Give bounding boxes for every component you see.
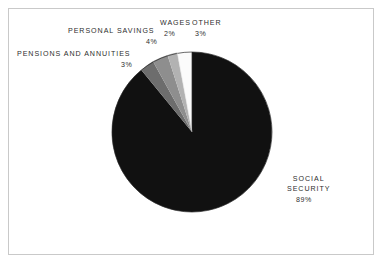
pie-value-other: 3% bbox=[195, 30, 206, 40]
chart-canvas: PENSIONS AND ANNUITIES 3% PERSONAL SAVIN… bbox=[0, 0, 383, 264]
pie-label-social-security-line2: SECURITY bbox=[287, 185, 330, 195]
pie-value-social-security: 89% bbox=[296, 196, 312, 206]
pie-value-wages: 2% bbox=[164, 30, 175, 40]
pie-label-pensions-and-annuities: PENSIONS AND ANNUITIES bbox=[17, 50, 131, 60]
pie-label-wages: WAGES bbox=[160, 19, 191, 29]
pie-label-social-security-line1: SOCIAL bbox=[287, 175, 330, 185]
pie-label-social-security: SOCIAL SECURITY bbox=[287, 175, 330, 194]
pie-label-personal-savings: PERSONAL SAVINGS bbox=[68, 27, 155, 37]
pie-chart bbox=[0, 0, 383, 264]
pie-value-personal-savings: 4% bbox=[146, 38, 157, 48]
pie-value-pensions-and-annuities: 3% bbox=[121, 61, 132, 71]
pie-label-other: OTHER bbox=[192, 19, 222, 29]
